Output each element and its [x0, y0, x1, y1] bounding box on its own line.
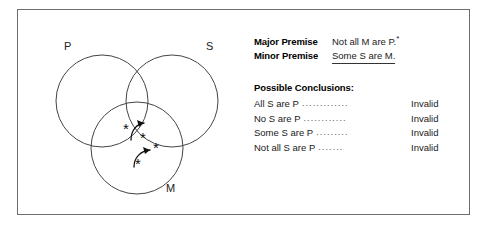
major-premise-label: Major Premise [254, 35, 332, 48]
minor-premise-row: Minor Premise Some S are M. [254, 49, 449, 64]
venn-label-s: S [206, 40, 213, 52]
minor-premise-text: Some S are M. [332, 49, 395, 64]
venn-asterisk-p-s-m: * [140, 129, 146, 146]
major-premise-text: Not all M are P.* [332, 35, 399, 48]
major-premise-row: Major Premise Not all M are P.* [254, 35, 449, 48]
text-panel: Major Premise Not all M are P.* Minor Pr… [254, 35, 449, 155]
figure-frame: P S M * * * * Major Premise Not all M ar… [17, 9, 470, 215]
venn-circle-m [91, 102, 183, 194]
conclusion-verdict: Invalid [411, 126, 449, 140]
premises-block: Major Premise Not all M are P.* Minor Pr… [254, 35, 449, 64]
conclusion-claim: No S are P [254, 112, 300, 126]
footnote-asterisk: * [396, 34, 399, 43]
venn-circle-p [56, 55, 148, 147]
conclusion-leader: ............. [302, 97, 408, 111]
conclusions-block: Possible Conclusions: All S are P ......… [254, 82, 449, 155]
venn-diagram: P S M * * * * [42, 26, 232, 204]
conclusion-claim: All S are P [254, 97, 299, 111]
conclusion-row: Some S are P ......... Invalid [254, 126, 449, 141]
venn-label-m: M [166, 182, 175, 194]
venn-asterisk-s-m: * [153, 139, 159, 156]
conclusion-claim: Not all S are P [254, 141, 315, 155]
minor-premise-label: Minor Premise [254, 49, 332, 62]
conclusions-title: Possible Conclusions: [254, 82, 449, 93]
conclusion-verdict: Invalid [411, 97, 449, 111]
conclusion-leader: ............ [303, 112, 408, 126]
conclusion-verdict: Invalid [411, 112, 449, 126]
conclusion-verdict: Invalid [411, 141, 449, 155]
conclusion-row: All S are P ............. Invalid [254, 97, 449, 112]
conclusion-row: No S are P ............ Invalid [254, 112, 449, 127]
venn-label-p: P [64, 40, 71, 52]
venn-asterisk-p-m: * [123, 120, 129, 137]
conclusion-row: Not all S are P ....... Invalid [254, 141, 449, 156]
conclusion-claim: Some S are P [254, 126, 313, 140]
major-premise-statement: Not all M are P. [332, 36, 396, 47]
conclusion-leader: ......... [316, 126, 408, 140]
conclusion-leader: ....... [318, 141, 408, 155]
